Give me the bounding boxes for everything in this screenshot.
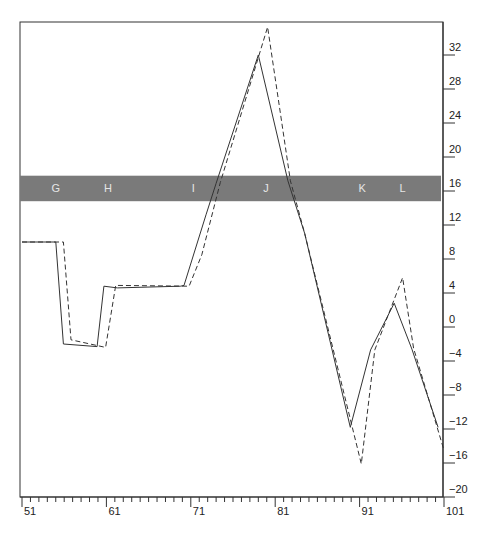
y-tick-label: −4 bbox=[449, 347, 462, 359]
y-tick-label: 28 bbox=[449, 75, 461, 87]
y-tick-label: −20 bbox=[449, 483, 468, 495]
x-tick-label: 81 bbox=[277, 505, 289, 517]
y-tick-label: −16 bbox=[449, 449, 468, 461]
band-label: K bbox=[358, 182, 366, 194]
x-tick-label: 71 bbox=[193, 505, 205, 517]
y-tick-label: 0 bbox=[449, 313, 455, 325]
y-tick-label: 4 bbox=[449, 279, 455, 291]
y-axis-right: 322824201612840−4−8−12−16−20 bbox=[443, 22, 468, 497]
band-rect bbox=[20, 176, 441, 202]
y-tick-label: 24 bbox=[449, 109, 461, 121]
band-label: J bbox=[263, 182, 269, 194]
x-tick-label: 91 bbox=[362, 505, 374, 517]
y-tick-label: 20 bbox=[449, 143, 461, 155]
band-label: L bbox=[400, 182, 406, 194]
y-tick-label: 8 bbox=[449, 245, 455, 257]
band-label: I bbox=[192, 182, 195, 194]
data-series bbox=[22, 27, 444, 464]
solid-line-series bbox=[22, 55, 438, 427]
y-tick-label: 32 bbox=[449, 41, 461, 53]
plot-frame bbox=[20, 22, 443, 497]
y-tick-label: 12 bbox=[449, 211, 461, 223]
band-label: G bbox=[51, 182, 60, 194]
line-chart: GHIJKL 322824201612840−4−8−12−16−20 5161… bbox=[0, 0, 484, 533]
y-tick-label: 16 bbox=[449, 177, 461, 189]
x-tick-label: 51 bbox=[24, 505, 36, 517]
x-axis-bottom: 5161718191101 bbox=[20, 497, 464, 517]
x-tick-label: 101 bbox=[446, 505, 464, 517]
band-label: H bbox=[104, 182, 112, 194]
highlight-band: GHIJKL bbox=[20, 176, 441, 202]
y-tick-label: −12 bbox=[449, 415, 468, 427]
dashed-line-series bbox=[22, 27, 444, 464]
y-tick-label: −8 bbox=[449, 381, 462, 393]
x-tick-label: 61 bbox=[108, 505, 120, 517]
